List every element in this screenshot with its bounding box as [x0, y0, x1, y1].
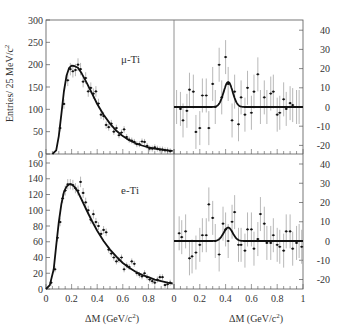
svg-text:0.6: 0.6 [117, 293, 130, 304]
svg-text:0: 0 [325, 236, 330, 247]
svg-text:10: 10 [320, 82, 330, 93]
svg-text:40: 40 [320, 25, 330, 36]
svg-text:0: 0 [44, 293, 49, 304]
svg-text:0.8: 0.8 [271, 293, 284, 304]
svg-text:0: 0 [325, 102, 330, 113]
svg-text:0: 0 [38, 284, 43, 295]
svg-text:-10: -10 [317, 121, 330, 132]
error-bars [50, 40, 304, 288]
svg-text:200: 200 [28, 59, 43, 70]
svg-text:0: 0 [172, 293, 177, 304]
svg-text:160: 160 [28, 158, 43, 169]
svg-text:100: 100 [28, 104, 43, 115]
svg-text:-20: -20 [317, 140, 330, 151]
svg-text:250: 250 [28, 37, 43, 48]
svg-text:60: 60 [33, 236, 43, 247]
svg-text:20: 20 [320, 63, 330, 74]
svg-text:1: 1 [301, 293, 306, 304]
x-axis-title-right: ΔM (GeV/c2) [229, 312, 283, 325]
svg-text:0.6: 0.6 [245, 293, 258, 304]
tick-labels: 0501001502002503000204060801001201401600… [28, 15, 330, 305]
top-panel-label: μ-Ti [121, 53, 140, 65]
chart: 0501001502002503000204060801001201401600… [0, 0, 337, 333]
svg-text:0.4: 0.4 [219, 293, 232, 304]
svg-text:40: 40 [33, 252, 43, 263]
svg-text:20: 20 [320, 197, 330, 208]
svg-text:120: 120 [28, 189, 43, 200]
svg-text:50: 50 [33, 126, 43, 137]
svg-text:30: 30 [320, 178, 330, 189]
svg-text:140: 140 [28, 173, 43, 184]
svg-text:30: 30 [320, 44, 330, 55]
svg-text:150: 150 [28, 82, 43, 93]
svg-text:-10: -10 [317, 255, 330, 266]
x-axis-title-left: ΔM (GeV/c2) [85, 312, 139, 325]
svg-text:80: 80 [33, 221, 43, 232]
svg-text:0.4: 0.4 [91, 293, 104, 304]
panel-frames [46, 20, 303, 289]
y-axis-title: Entries/ 25 MeV/c2 [3, 44, 15, 122]
svg-text:40: 40 [320, 159, 330, 170]
svg-text:0.2: 0.2 [65, 293, 78, 304]
svg-text:-20: -20 [317, 274, 330, 285]
svg-text:0.2: 0.2 [194, 293, 207, 304]
svg-text:300: 300 [28, 15, 43, 26]
svg-text:20: 20 [33, 268, 43, 279]
axis-ticks [46, 20, 303, 289]
bottom-panel-label: e-Ti [121, 184, 139, 196]
svg-text:0.8: 0.8 [142, 293, 155, 304]
svg-text:10: 10 [320, 216, 330, 227]
svg-text:100: 100 [28, 205, 43, 216]
